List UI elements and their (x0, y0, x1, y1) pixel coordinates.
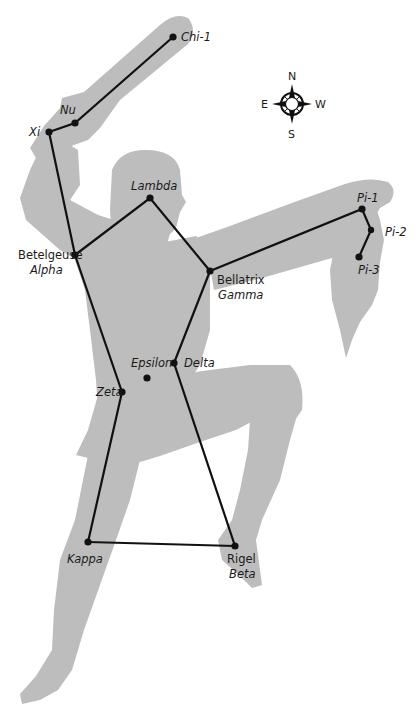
label-bellatrix: Bellatrix (217, 273, 265, 287)
label-pi1: Pi-1 (357, 191, 379, 205)
label-beta: Beta (229, 567, 256, 581)
label-chi1: Chi-1 (181, 30, 211, 44)
star-chi1[interactable] (169, 33, 176, 40)
star-pi1[interactable] (358, 205, 365, 212)
label-delta: Delta (184, 356, 215, 370)
label-lambda: Lambda (131, 179, 177, 193)
compass-rose-icon: N S E W (261, 70, 326, 141)
orion-diagram: Chi-1 Nu Xi Lambda Betelgeuse Alpha Bell… (0, 0, 418, 714)
diagram-canvas: Chi-1 Nu Xi Lambda Betelgeuse Alpha Bell… (0, 0, 418, 714)
label-pi2: Pi-2 (385, 225, 407, 239)
label-gamma: Gamma (218, 288, 263, 302)
label-zeta: Zeta (95, 385, 123, 399)
star-rigel[interactable] (231, 542, 238, 549)
star-bellatrix[interactable] (206, 267, 213, 274)
compass-n: N (288, 70, 296, 83)
label-xi: Xi (28, 125, 41, 139)
star-epsilon[interactable] (143, 374, 150, 381)
label-epsilon: Epsilon (131, 356, 172, 370)
compass-w: W (315, 98, 326, 111)
compass-s: S (288, 128, 295, 141)
label-alpha: Alpha (29, 263, 63, 277)
label-rigel: Rigel (227, 552, 256, 566)
star-xi[interactable] (45, 128, 52, 135)
star-kappa[interactable] (84, 538, 91, 545)
club-shape (30, 16, 193, 158)
label-kappa: Kappa (67, 552, 103, 566)
compass-e: E (261, 98, 268, 111)
star-lambda[interactable] (146, 194, 153, 201)
star-nu[interactable] (71, 119, 78, 126)
left-leg-shape (20, 455, 140, 704)
label-pi3: Pi-3 (358, 263, 380, 277)
star-pi3[interactable] (355, 253, 362, 260)
label-nu: Nu (60, 103, 76, 117)
star-pi2[interactable] (368, 227, 374, 233)
label-betelgeuse: Betelgeuse (18, 248, 82, 262)
